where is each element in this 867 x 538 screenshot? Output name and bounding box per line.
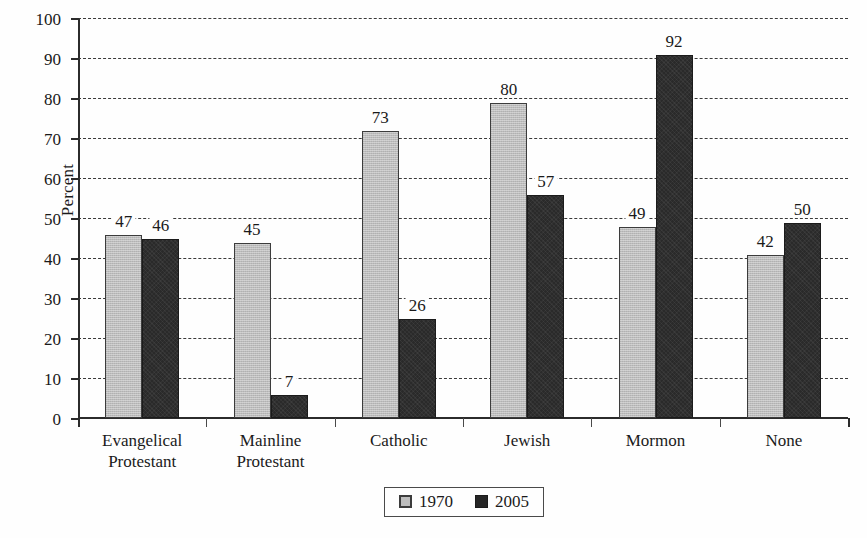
x-tick-2 xyxy=(335,418,336,427)
y-tick-10: 10 xyxy=(71,378,79,380)
y-tick-40: 40 xyxy=(71,258,79,260)
y-tick-label-100: 100 xyxy=(36,11,62,28)
gridline-30 xyxy=(78,298,848,299)
x-tick-5 xyxy=(720,418,721,427)
y-tick-label-40: 40 xyxy=(44,251,61,268)
category-label-catholic: Catholic xyxy=(370,430,428,451)
y-tick-label-30: 30 xyxy=(44,291,61,308)
gridline-60 xyxy=(78,178,848,179)
y-tick-100: 100 xyxy=(71,18,79,20)
bar-2005-catholic xyxy=(399,319,436,418)
gridline-20 xyxy=(78,338,848,339)
value-label-2005-catholic: 26 xyxy=(406,297,429,314)
bar-1970-catholic xyxy=(362,131,399,418)
x-tick-1 xyxy=(206,418,207,427)
gridline-80 xyxy=(78,98,848,99)
y-tick-label-50: 50 xyxy=(44,211,61,228)
y-tick-label-10: 10 xyxy=(44,371,61,388)
bar-1970-none xyxy=(747,255,784,418)
bar-1970-mainline-protestant xyxy=(234,243,271,418)
value-label-1970-none: 42 xyxy=(754,233,777,250)
y-tick-90: 90 xyxy=(71,58,79,60)
bar-1970-jewish xyxy=(490,103,527,418)
bar-1970-evangelical-protestant xyxy=(105,235,142,418)
value-label-1970-jewish: 80 xyxy=(497,81,520,98)
value-label-1970-catholic: 73 xyxy=(369,109,392,126)
category-label-mainline: Mainline Protestant xyxy=(237,430,305,472)
value-label-2005-jewish: 57 xyxy=(534,173,557,190)
value-label-2005-mormon: 92 xyxy=(663,33,686,50)
x-tick-3 xyxy=(463,418,464,427)
y-tick-50: 50 xyxy=(71,218,79,220)
bar-2005-mormon xyxy=(656,55,693,418)
y-tick-60: 60 xyxy=(71,178,79,180)
y-tick-20: 20 xyxy=(71,338,79,340)
legend-swatch-1970-icon xyxy=(399,495,412,508)
value-label-2005-evangelical-protestant: 46 xyxy=(149,217,172,234)
x-tick-0 xyxy=(78,418,80,427)
y-tick-30: 30 xyxy=(71,298,79,300)
x-tick-6 xyxy=(848,418,850,427)
value-label-2005-mainline-protestant: 7 xyxy=(282,373,297,390)
gridline-100 xyxy=(78,18,848,19)
value-label-2005-none: 50 xyxy=(791,201,814,218)
gridline-10 xyxy=(78,378,848,379)
y-tick-label-20: 20 xyxy=(44,331,61,348)
gridline-40 xyxy=(78,258,848,259)
y-tick-label-0: 0 xyxy=(53,411,62,428)
y-tick-70: 70 xyxy=(71,138,79,140)
category-label-jewish: Jewish xyxy=(504,430,550,451)
legend-item-1970: 1970 xyxy=(399,493,453,510)
y-tick-label-60: 60 xyxy=(44,171,61,188)
gridline-50 xyxy=(78,218,848,219)
legend-label-2005: 2005 xyxy=(495,493,529,510)
bar-2005-evangelical-protestant xyxy=(142,239,179,418)
y-tick-label-80: 80 xyxy=(44,91,61,108)
bar-2005-none xyxy=(784,223,821,418)
legend-swatch-2005-icon xyxy=(475,495,488,508)
y-axis-title: Percent xyxy=(58,130,78,250)
y-tick-label-90: 90 xyxy=(44,51,61,68)
bar-2005-jewish xyxy=(527,195,564,418)
bar-2005-mainline-protestant xyxy=(271,395,308,418)
gridline-70 xyxy=(78,138,848,139)
value-label-1970-mormon: 49 xyxy=(626,205,649,222)
legend-label-1970: 1970 xyxy=(419,493,453,510)
category-label-none: None xyxy=(765,430,802,451)
gridline-90 xyxy=(78,58,848,59)
category-label-mormon: Mormon xyxy=(626,430,686,451)
bar-1970-mormon xyxy=(619,227,656,418)
category-label-evangelical: Evangelical Protestant xyxy=(102,430,182,472)
plot-area: 1009080706050403020100 47464577326805749… xyxy=(78,18,848,418)
x-tick-4 xyxy=(591,418,592,427)
value-label-1970-mainline-protestant: 45 xyxy=(241,221,264,238)
bar-chart: Percent 1009080706050403020100 474645773… xyxy=(0,0,867,538)
legend: 1970 2005 xyxy=(384,487,544,517)
value-label-1970-evangelical-protestant: 47 xyxy=(112,213,135,230)
y-tick-80: 80 xyxy=(71,98,79,100)
y-tick-label-70: 70 xyxy=(44,131,61,148)
legend-item-2005: 2005 xyxy=(475,493,529,510)
